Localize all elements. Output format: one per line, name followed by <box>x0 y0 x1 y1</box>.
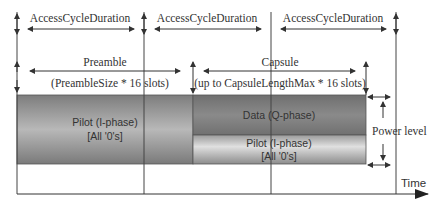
capsule-title: Capsule <box>261 56 298 69</box>
preamble-pilot-line2: [All '0's] <box>87 130 123 142</box>
capsule-pilot-line2: [All '0's] <box>261 150 297 162</box>
access-cycle-label-2: AccessCycleDuration <box>157 12 258 25</box>
time-axis-label: Time <box>401 177 426 189</box>
access-cycle-label-1: AccessCycleDuration <box>30 12 131 25</box>
duration-arrows <box>28 29 386 71</box>
preamble-pilot-line1: Pilot (I-phase) <box>72 116 137 128</box>
capsule-pilot-line1: Pilot (I-phase) <box>246 137 311 149</box>
access-cycle-diagram: AccessCycleDuration AccessCycleDuration … <box>0 0 444 208</box>
capsule-subtitle: (up to CapsuleLengthMax * 16 slots) <box>194 77 366 90</box>
access-cycle-label-3: AccessCycleDuration <box>283 12 384 25</box>
power-level-label: Power level <box>372 125 427 137</box>
preamble-title: Preamble <box>83 56 126 68</box>
capsule-data-label: Data (Q-phase) <box>243 109 315 121</box>
preamble-subtitle: (PreambleSize * 16 slots) <box>51 77 169 90</box>
